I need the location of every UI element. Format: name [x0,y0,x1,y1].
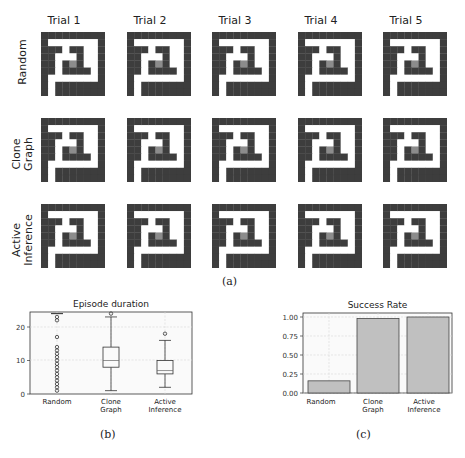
column-title-trial-4: Trial 4 [286,14,356,27]
maze-trial-3-row-1 [212,32,276,96]
svg-text:1.00: 1.00 [282,314,298,322]
row-label-active-inference: Active Inference [11,205,35,275]
caption-c: (c) [356,428,371,441]
svg-text:0.25: 0.25 [282,371,298,379]
maze-trial-5-row-2 [383,118,447,182]
category-label-active-inference: Active Inference [394,398,454,414]
maze-trial-2-row-3 [127,204,191,268]
category-label-active-inference: Active Inference [135,398,195,414]
svg-text:0.50: 0.50 [282,352,298,360]
svg-text:10: 10 [16,357,25,365]
maze-trial-4-row-2 [298,118,362,182]
maze-trial-4-row-1 [298,32,362,96]
category-label-clone-graph: Clone Graph [81,398,141,414]
column-title-trial-1: Trial 1 [29,14,99,27]
maze-trial-1-row-1 [41,32,105,96]
maze-trial-3-row-3 [212,204,276,268]
category-label-random: Random [27,398,87,406]
svg-text:20: 20 [16,324,25,332]
maze-trial-5-row-1 [383,32,447,96]
maze-trial-3-row-2 [212,118,276,182]
column-title-trial-5: Trial 5 [371,14,441,27]
caption-b: (b) [100,428,116,441]
column-title-trial-3: Trial 3 [200,14,270,27]
svg-text:0: 0 [21,391,25,399]
column-title-trial-2: Trial 2 [115,14,185,27]
maze-trial-2-row-1 [127,32,191,96]
category-label-random: Random [291,398,351,406]
svg-text:0.00: 0.00 [282,390,298,398]
maze-trial-1-row-3 [41,204,105,268]
row-label-random: Random [17,27,29,97]
maze-trial-4-row-3 [298,204,362,268]
svg-text:0.75: 0.75 [282,333,298,341]
row-label-clone-graph: Clone Graph [11,119,35,189]
caption-a: (a) [222,275,237,288]
maze-trial-1-row-2 [41,118,105,182]
maze-trial-2-row-2 [127,118,191,182]
maze-trial-5-row-3 [383,204,447,268]
